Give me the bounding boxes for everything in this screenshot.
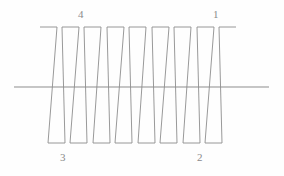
terminal-label-3: 3 xyxy=(60,152,66,163)
terminal-label-4: 4 xyxy=(78,9,84,20)
terminal-label-1: 1 xyxy=(213,9,219,20)
winding-diagram-svg xyxy=(0,0,284,176)
terminal-label-2: 2 xyxy=(197,152,203,163)
figure-canvas: 4 1 3 2 xyxy=(0,0,284,176)
